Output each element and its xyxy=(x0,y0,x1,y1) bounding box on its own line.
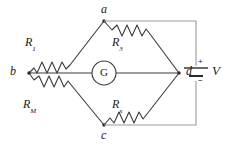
resistor-rm-symbol xyxy=(29,73,104,125)
polarity-plus-sign: + xyxy=(198,58,203,66)
node-label-d: d xyxy=(186,65,192,77)
resistor-label-rm: RM xyxy=(23,98,36,113)
resistor-label-rx: Rx xyxy=(112,98,122,113)
resistor-rm-subscript: M xyxy=(30,107,36,115)
resistor-label-r1: R1 xyxy=(25,36,36,51)
polarity-minus-sign: − xyxy=(198,77,203,85)
resistor-label-r3: R3 xyxy=(112,36,123,51)
resistor-r1-subscript: 1 xyxy=(32,45,36,53)
node-label-c: c xyxy=(101,129,106,141)
circuit-schematic xyxy=(0,0,235,146)
resistor-r1-symbol xyxy=(29,21,104,73)
node-label-b: b xyxy=(10,65,16,77)
node-dot-b xyxy=(27,71,30,74)
galvanometer-label: G xyxy=(100,67,108,78)
wheatstone-bridge-figure: a b c d R1 R3 RM Rx G + − V xyxy=(0,0,235,146)
voltage-source-label: V xyxy=(212,64,220,77)
resistor-rx-subscript: x xyxy=(119,107,122,115)
node-label-a: a xyxy=(101,3,107,15)
resistor-r3-subscript: 3 xyxy=(119,45,123,53)
node-dot-d xyxy=(177,71,180,74)
